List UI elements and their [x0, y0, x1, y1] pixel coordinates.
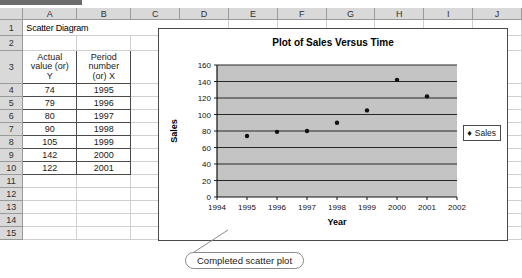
x-tick-label: 1998 — [328, 203, 346, 212]
row-header-9[interactable]: 9 — [0, 149, 23, 162]
chart-plot-svg: 0204060801001201401601994199519961997199… — [159, 29, 509, 242]
x-tick-label: 1996 — [268, 203, 286, 212]
legend-label-sales: Sales — [475, 128, 496, 138]
cell-b11[interactable] — [77, 175, 131, 188]
legend-marker-icon: ♦ — [467, 129, 472, 137]
column-header-d[interactable]: D — [180, 8, 229, 20]
data-point — [335, 121, 339, 125]
annotation-callout: Completed scatter plot — [185, 252, 304, 269]
window-bar-fragment — [0, 0, 82, 5]
cell-b12[interactable] — [77, 188, 131, 201]
x-tick-label: 2001 — [418, 203, 436, 212]
y-tick-label: 0 — [207, 193, 212, 202]
x-tick-label: 1995 — [238, 203, 256, 212]
cell-b4[interactable]: 1995 — [77, 84, 131, 97]
cell-b13[interactable] — [77, 201, 131, 214]
y-tick-label: 120 — [198, 94, 212, 103]
cell-b15[interactable] — [77, 227, 131, 240]
chart-legend[interactable]: ♦ Sales — [463, 125, 501, 141]
column-header-h[interactable]: H — [375, 8, 424, 20]
y-tick-label: 140 — [198, 78, 212, 87]
data-point — [275, 130, 279, 134]
sheet-title-cell[interactable]: Scatter Diagram — [23, 20, 180, 36]
cell-b6[interactable]: 1997 — [77, 110, 131, 123]
x-tick-label: 1999 — [358, 203, 376, 212]
cell-a2[interactable] — [23, 36, 77, 51]
y-tick-label: 100 — [198, 111, 212, 120]
cell-a15[interactable] — [23, 227, 77, 240]
cell-b5[interactable]: 1996 — [77, 97, 131, 110]
y-tick-label: 40 — [202, 160, 211, 169]
column-header-row: A B C D E F G H I J — [0, 8, 522, 20]
y-tick-label: 80 — [202, 127, 211, 136]
x-axis-title: Year — [327, 217, 347, 227]
row-header-11[interactable]: 11 — [0, 175, 23, 188]
row-header-7[interactable]: 7 — [0, 123, 23, 136]
scatter-chart-object[interactable]: Plot of Sales Versus Time 02040608010012… — [158, 28, 508, 241]
cell-b9[interactable]: 2000 — [77, 149, 131, 162]
column-header-c[interactable]: C — [131, 8, 180, 20]
cell-b2[interactable] — [77, 36, 131, 51]
row-header-1[interactable]: 1 — [0, 20, 23, 36]
cell-a12[interactable] — [23, 188, 77, 201]
cell-b8[interactable]: 1999 — [77, 136, 131, 149]
header-b-line3: (or) X — [77, 72, 130, 82]
cell-a13[interactable] — [23, 201, 77, 214]
row-header-4[interactable]: 4 — [0, 84, 23, 97]
column-header-j[interactable]: J — [473, 8, 522, 20]
cell-a11[interactable] — [23, 175, 77, 188]
row-header-12[interactable]: 12 — [0, 188, 23, 201]
select-all-corner[interactable] — [0, 8, 23, 20]
cell-a7[interactable]: 90 — [23, 123, 77, 136]
row-header-13[interactable]: 13 — [0, 201, 23, 214]
table-header-period-number[interactable]: Period number (or) X — [77, 51, 131, 84]
cell-a14[interactable] — [23, 214, 77, 227]
row-header-6[interactable]: 6 — [0, 110, 23, 123]
data-point — [245, 134, 249, 138]
column-header-e[interactable]: E — [229, 8, 278, 20]
row-header-15[interactable]: 15 — [0, 227, 23, 240]
x-tick-label: 2000 — [388, 203, 406, 212]
x-tick-label: 1997 — [298, 203, 316, 212]
cell-a10[interactable]: 122 — [23, 162, 77, 175]
row-header-14[interactable]: 14 — [0, 214, 23, 227]
cell-a5[interactable]: 79 — [23, 97, 77, 110]
cell-a8[interactable]: 105 — [23, 136, 77, 149]
table-header-actual-value[interactable]: Actual value (or) Y — [23, 51, 77, 84]
cell-b10[interactable]: 2001 — [77, 162, 131, 175]
cell-a4[interactable]: 74 — [23, 84, 77, 97]
cell-a6[interactable]: 80 — [23, 110, 77, 123]
x-tick-label: 2002 — [448, 203, 466, 212]
row-header-8[interactable]: 8 — [0, 136, 23, 149]
row-header-2[interactable]: 2 — [0, 36, 23, 51]
cell-a9[interactable]: 142 — [23, 149, 77, 162]
x-tick-label: 1994 — [208, 203, 226, 212]
data-point — [425, 94, 429, 98]
row-header-5[interactable]: 5 — [0, 97, 23, 110]
column-header-a[interactable]: A — [23, 8, 77, 20]
row-header-3[interactable]: 3 — [0, 51, 23, 84]
data-point — [305, 129, 309, 133]
column-header-g[interactable]: G — [326, 8, 375, 20]
column-header-f[interactable]: F — [277, 8, 326, 20]
header-a-line3: Y — [23, 72, 76, 82]
data-point — [395, 78, 399, 82]
data-point — [365, 108, 369, 112]
cell-b14[interactable] — [77, 214, 131, 227]
y-axis-title: Sales — [169, 119, 179, 143]
y-tick-label: 20 — [202, 177, 211, 186]
row-header-10[interactable]: 10 — [0, 162, 23, 175]
cell-b7[interactable]: 1998 — [77, 123, 131, 136]
column-header-i[interactable]: I — [424, 8, 473, 20]
y-tick-label: 160 — [198, 61, 212, 70]
y-tick-label: 60 — [202, 144, 211, 153]
column-header-b[interactable]: B — [77, 8, 131, 20]
